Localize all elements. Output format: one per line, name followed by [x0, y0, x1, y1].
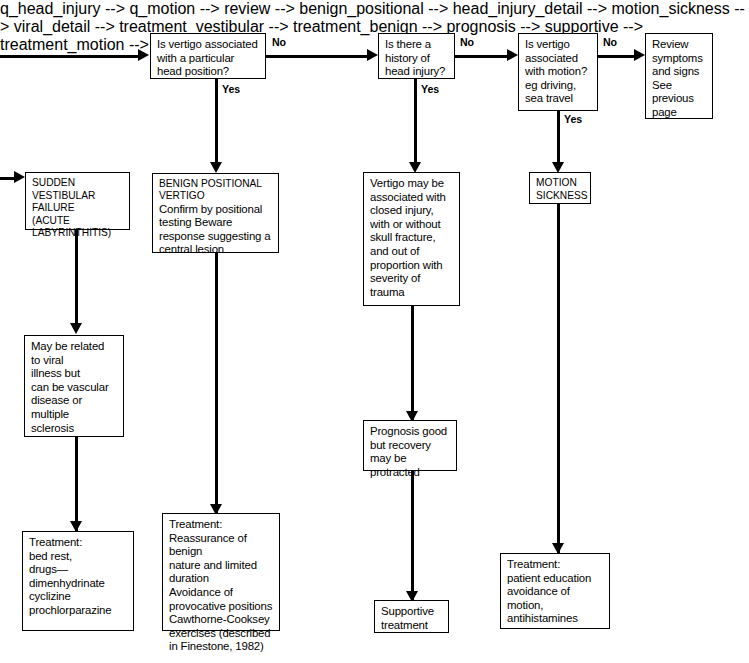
connector-no-1 — [265, 55, 370, 58]
arrowhead-no-3 — [634, 49, 645, 61]
connector-no-2 — [455, 55, 510, 58]
node-benign-heading: BENIGN POSITIONAL VERTIGO — [159, 178, 273, 203]
edge-label-no-1: No — [272, 36, 286, 48]
connector-motion-to-treatment — [557, 203, 560, 553]
edge-label-no-2: No — [460, 36, 474, 48]
arrowhead-vestibular-to-viral — [70, 323, 82, 334]
node-benign-body: Confirm by positional testing Beware res… — [159, 203, 273, 257]
connector-vestibular-to-viral — [75, 229, 78, 327]
connector-prognosis-to-supportive — [411, 470, 414, 605]
node-motion-sickness[interactable]: MOTION SICKNESS — [529, 172, 591, 204]
edge-label-yes-2: Yes — [421, 83, 439, 95]
node-question-head-position[interactable]: Is vertigo associated with a particular … — [150, 33, 266, 79]
connector-no-3 — [597, 55, 637, 58]
connector-yes-1 — [215, 78, 218, 166]
node-treatment-vestibular[interactable]: Treatment: bed rest, drugs— dimenhydrina… — [22, 531, 134, 631]
connector-benign-to-treatment — [215, 252, 218, 514]
node-treatment-benign[interactable]: Treatment: Reassurance of benign nature … — [162, 513, 280, 631]
node-supportive-treatment[interactable]: Supportive treatment — [374, 600, 449, 633]
arrowhead-no-1 — [367, 49, 378, 61]
flowchart-canvas: q_head_injury --> q_motion --> review --… — [0, 0, 749, 663]
connector-injury-to-prognosis — [411, 305, 414, 420]
node-sudden-vestibular-failure[interactable]: SUDDEN VESTIBULAR FAILURE (ACUTE LABYRIN… — [25, 172, 130, 230]
connector-yes-2 — [414, 78, 417, 166]
node-question-head-injury[interactable]: Is there a history of head injury? — [378, 33, 455, 79]
edge-label-yes-1: Yes — [222, 83, 240, 95]
arrowhead-entry-top — [138, 49, 149, 61]
connector-entry-top — [0, 55, 140, 58]
node-question-motion[interactable]: Is vertigo associated with motion? eg dr… — [518, 33, 598, 111]
arrowhead-entry-left-branch — [14, 171, 25, 183]
node-head-injury-detail[interactable]: Vertigo may be associated with closed in… — [363, 172, 460, 306]
node-viral-illness-detail[interactable]: May be related to viral illness but can … — [24, 335, 124, 437]
arrowhead-no-2 — [507, 49, 518, 61]
node-review-symptoms[interactable]: Review symptoms and signs See previous p… — [645, 33, 713, 119]
arrowhead-yes-1 — [210, 162, 222, 173]
connector-yes-3 — [557, 110, 560, 166]
node-treatment-motion[interactable]: Treatment: patient education avoidance o… — [500, 553, 610, 629]
edge-label-yes-3: Yes — [564, 113, 582, 125]
node-benign-positional-vertigo[interactable]: BENIGN POSITIONAL VERTIGOConfirm by posi… — [152, 173, 279, 253]
node-prognosis[interactable]: Prognosis good but recovery may be protr… — [363, 420, 457, 471]
connector-viral-to-treatment — [75, 436, 78, 531]
edge-label-no-3: No — [603, 36, 617, 48]
